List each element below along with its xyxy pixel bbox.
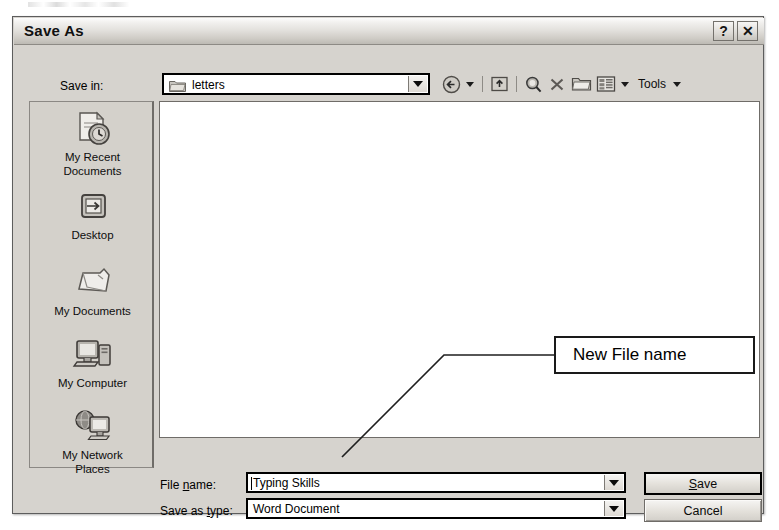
my-documents-folder-icon — [30, 262, 155, 304]
save-in-dropdown-button[interactable] — [408, 76, 427, 92]
network-places-icon — [30, 406, 155, 448]
help-button[interactable]: ? — [713, 21, 734, 41]
back-dropdown-chevron-down-icon[interactable] — [466, 82, 474, 87]
file-name-input[interactable]: Typing Skills — [253, 476, 320, 490]
sidebar-item-my-documents[interactable]: My Documents — [30, 262, 155, 318]
up-one-level-icon — [490, 75, 509, 93]
delete-button[interactable] — [547, 75, 567, 94]
places-bar: My Recent Documents Desktop My — [29, 101, 154, 468]
sidebar-item-label: My Network — [30, 449, 155, 462]
chevron-down-icon — [413, 81, 423, 87]
new-folder-button[interactable] — [571, 75, 592, 93]
tools-menu[interactable]: Tools — [638, 77, 666, 91]
save-as-type-dropdown-button[interactable] — [604, 501, 623, 516]
sidebar-item-my-computer[interactable]: My Computer — [30, 334, 155, 390]
file-name-label-post: ame: — [189, 478, 216, 492]
search-magnifier-icon — [524, 75, 543, 94]
sidebar-item-label: My Documents — [30, 305, 155, 318]
up-one-level-button[interactable] — [490, 75, 509, 93]
new-folder-icon — [571, 75, 592, 93]
views-button[interactable] — [596, 75, 616, 93]
views-grid-icon — [596, 75, 616, 93]
desktop-icon — [30, 186, 155, 228]
question-mark-icon: ? — [719, 24, 728, 38]
toolbar-separator — [482, 76, 483, 92]
annotation-callout-text: New File name — [573, 345, 686, 365]
sidebar-item-label: My Recent — [30, 151, 155, 164]
file-name-combobox[interactable]: Typing Skills — [246, 472, 626, 493]
save-as-dialog: Save As ? ✕ Save in: letters — [12, 16, 764, 514]
save-as-type-label-post: ype: — [210, 504, 233, 518]
sidebar-item-desktop[interactable]: Desktop — [30, 186, 155, 242]
tools-dropdown-chevron-down-icon[interactable] — [673, 82, 681, 87]
save-as-type-value: Word Document — [253, 502, 339, 516]
save-as-type-combobox[interactable]: Word Document — [246, 498, 626, 519]
title-bar-buttons: ? ✕ — [713, 21, 758, 41]
title-bar: Save As ? ✕ — [14, 18, 764, 45]
file-name-label: File name: — [160, 478, 216, 492]
chevron-down-icon — [609, 506, 619, 512]
save-in-combobox[interactable]: letters — [162, 73, 430, 95]
views-dropdown-chevron-down-icon[interactable] — [621, 82, 629, 87]
back-arrow-icon — [442, 75, 461, 94]
toolbar-separator — [516, 76, 517, 92]
chevron-down-icon — [609, 480, 619, 486]
sidebar-item-label-2: Documents — [30, 165, 155, 178]
recent-documents-icon — [30, 108, 155, 150]
close-button[interactable]: ✕ — [737, 21, 758, 41]
text-cursor — [251, 477, 252, 490]
sidebar-item-label-2: Places — [30, 463, 155, 476]
sidebar-item-my-recent-documents[interactable]: My Recent Documents — [30, 108, 155, 178]
cancel-button-label: Cancel — [684, 504, 723, 518]
file-name-label-pre: File — [160, 478, 183, 492]
search-button[interactable] — [524, 75, 543, 94]
save-as-type-label-pre: Save as — [160, 504, 207, 518]
delete-x-icon — [547, 75, 567, 94]
back-button[interactable] — [442, 75, 461, 94]
save-as-type-label: Save as type: — [160, 504, 233, 518]
sidebar-item-my-network-places[interactable]: My Network Places — [30, 406, 155, 476]
scan-artifact — [28, 2, 138, 7]
save-button-label: ave — [697, 477, 717, 491]
save-button[interactable]: Save — [644, 472, 762, 495]
window-title: Save As — [24, 22, 84, 39]
sidebar-item-label: My Computer — [30, 377, 155, 390]
file-list-pane[interactable] — [159, 101, 760, 438]
folder-icon — [169, 79, 186, 92]
close-x-icon: ✕ — [742, 24, 754, 38]
save-in-label: Save in: — [60, 79, 103, 93]
file-name-dropdown-button[interactable] — [604, 475, 623, 490]
cancel-button[interactable]: Cancel — [644, 499, 762, 522]
save-in-value: letters — [192, 78, 225, 92]
annotation-callout: New File name — [554, 336, 755, 374]
save-button-accel: S — [689, 477, 697, 491]
sidebar-item-label: Desktop — [30, 229, 155, 242]
dialog-toolbar: Tools — [442, 73, 682, 95]
my-computer-icon — [30, 334, 155, 376]
